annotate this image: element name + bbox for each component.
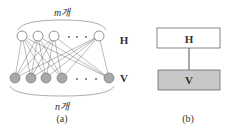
top-layer-count-label: m개 — [54, 7, 72, 18]
panel-b-block-diagram: H V H V (b) — [120, 28, 220, 125]
hidden-node — [17, 31, 27, 41]
top-brace — [18, 20, 106, 30]
connections — [15, 36, 109, 78]
top-ellipsis — [68, 36, 87, 38]
panel-a-full-network: m개 n개 (a — [10, 7, 114, 125]
bottom-layer-count-label: n개 — [55, 101, 71, 112]
visible-side-label: V — [120, 72, 128, 84]
visible-node — [57, 73, 67, 83]
hidden-box-label: H — [185, 33, 194, 45]
visible-node — [26, 73, 36, 83]
hidden-node — [94, 31, 104, 41]
bottom-ellipsis — [76, 78, 97, 80]
hidden-node — [49, 31, 59, 41]
visible-node — [10, 73, 20, 83]
hidden-node — [33, 31, 43, 41]
caption-a: (a) — [56, 113, 67, 125]
visible-node — [41, 73, 51, 83]
bottom-brace — [10, 86, 114, 96]
rbm-diagram: m개 n개 (a — [0, 0, 229, 137]
caption-b: (b) — [182, 113, 194, 125]
visible-node — [104, 73, 114, 83]
visible-box-label: V — [185, 74, 193, 86]
hidden-side-label: H — [120, 34, 129, 46]
